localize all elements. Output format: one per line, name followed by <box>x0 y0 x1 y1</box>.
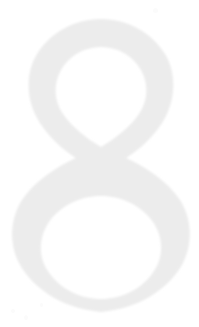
upper-bowl-stroke <box>29 19 174 173</box>
numeral-eight-glyph <box>0 0 199 327</box>
scanned-page: 8 <box>0 0 199 327</box>
scan-speck-top-right <box>153 8 158 13</box>
scan-speck-bottom-left-b <box>24 315 28 320</box>
lower-bowl-stroke <box>12 157 190 312</box>
scan-speck-bottom-left-c <box>40 303 43 307</box>
scan-speck-bottom-left-a <box>11 309 15 313</box>
